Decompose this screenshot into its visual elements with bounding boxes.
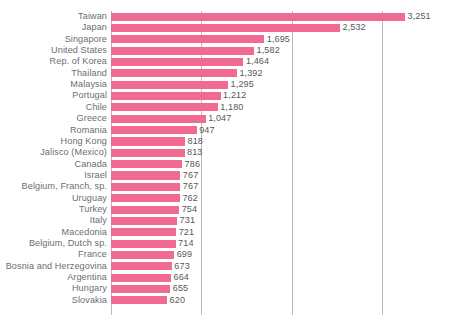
bar-row: Thailand1,392 [0,68,456,79]
bar [111,183,180,191]
bar [111,115,206,123]
category-label: Italy [0,215,107,226]
bar-value-label: 818 [187,136,202,147]
bar-row: Bosnia and Herzegovina673 [0,261,456,272]
bar-row: Israel767 [0,170,456,181]
category-label: Singapore [0,34,107,45]
category-label: Canada [0,159,107,170]
bar [111,262,172,270]
bar-chart: Taiwan3,251Japan2,532Singapore1,695Unite… [0,0,456,331]
bar [111,137,185,145]
bar [111,240,176,248]
bar-row: Uruguay762 [0,193,456,204]
bar-value-label: 699 [177,249,192,260]
bar-value-label: 947 [199,125,214,136]
category-label: Turkey [0,204,107,215]
category-label: Jalisco (Mexico) [0,147,107,158]
bar [111,81,228,89]
category-label: Bosnia and Herzegovina [0,261,107,272]
bar-value-label: 767 [183,170,198,181]
bar-value-label: 1,582 [257,45,280,56]
bar-row: Japan2,532 [0,22,456,33]
category-label: United States [0,45,107,56]
bar-value-label: 664 [174,272,189,283]
bar-row: Romania947 [0,125,456,136]
category-label: Rep. of Korea [0,56,107,67]
bar [111,47,254,55]
bar-row: Argentina664 [0,272,456,283]
bar [111,285,170,293]
bar-value-label: 673 [174,261,189,272]
bar-row: Belgium, Dutch sp.714 [0,238,456,249]
category-label: Portugal [0,90,107,101]
bar-row: Canada786 [0,159,456,170]
bar-row: Italy731 [0,215,456,226]
bar [111,160,182,168]
bar-row: Greece1,047 [0,113,456,124]
bar-value-label: 620 [170,295,185,306]
category-label: Japan [0,22,107,33]
bar-row: Belgium, Franch, sp.767 [0,181,456,192]
category-label: Israel [0,170,107,181]
category-label: Macedonia [0,227,107,238]
bar-value-label: 714 [178,238,193,249]
bar [111,274,171,282]
bar [111,69,237,77]
category-label: Hong Kong [0,136,107,147]
category-label: Hungary [0,283,107,294]
bar-row: Jalisco (Mexico)813 [0,147,456,158]
bar-rows: Taiwan3,251Japan2,532Singapore1,695Unite… [0,0,456,331]
bar-row: Macedonia721 [0,227,456,238]
bar-row: Malaysia1,295 [0,79,456,90]
category-label: Belgium, Franch, sp. [0,181,107,192]
bar-value-label: 1,295 [231,79,254,90]
bar-row: Taiwan3,251 [0,11,456,22]
bar-value-label: 1,047 [208,113,231,124]
bar-value-label: 1,695 [267,34,290,45]
bar [111,58,243,66]
bar [111,35,264,43]
bar-row: United States1,582 [0,45,456,56]
bar-row: Chile1,180 [0,102,456,113]
bar-value-label: 762 [182,193,197,204]
bar-value-label: 767 [183,181,198,192]
bar-value-label: 1,464 [246,56,269,67]
bar-value-label: 731 [180,215,195,226]
bar [111,13,405,21]
bar-value-label: 721 [179,227,194,238]
bar [111,217,177,225]
bar-row: France699 [0,249,456,260]
bar-value-label: 1,392 [239,68,262,79]
bar-value-label: 3,251 [407,11,430,22]
bar-row: Slovakia620 [0,295,456,306]
bar [111,228,176,236]
bar [111,194,180,202]
category-label: Thailand [0,68,107,79]
bar [111,251,174,259]
category-label: Slovakia [0,295,107,306]
bar [111,149,185,157]
bar [111,171,180,179]
category-label: Belgium, Dutch sp. [0,238,107,249]
bar-value-label: 754 [182,204,197,215]
bar [111,103,218,111]
category-label: Chile [0,102,107,113]
bar [111,126,197,134]
bar-value-label: 655 [173,283,188,294]
category-label: France [0,249,107,260]
bar-row: Hungary655 [0,283,456,294]
bar-value-label: 1,212 [223,90,246,101]
bar [111,92,221,100]
category-label: Argentina [0,272,107,283]
category-label: Uruguay [0,193,107,204]
category-label: Greece [0,113,107,124]
bar-value-label: 1,180 [220,102,243,113]
bar-row: Portugal1,212 [0,90,456,101]
bar [111,206,179,214]
bar-row: Hong Kong818 [0,136,456,147]
category-label: Malaysia [0,79,107,90]
bar [111,296,167,304]
bar-value-label: 786 [185,159,200,170]
category-label: Romania [0,125,107,136]
category-label: Taiwan [0,11,107,22]
